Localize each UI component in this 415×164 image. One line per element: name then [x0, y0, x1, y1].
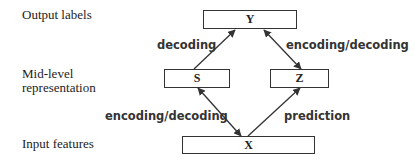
- node-y: Y: [203, 10, 297, 29]
- level-label-mid-line2: representation: [22, 81, 96, 95]
- edge-label-decoding: decoding: [157, 39, 216, 52]
- level-label-output: Output labels: [22, 8, 92, 22]
- diagram-canvas: Output labels Mid-level representation I…: [0, 0, 415, 164]
- level-label-input: Input features: [22, 137, 94, 151]
- node-z: Z: [270, 69, 329, 88]
- node-y-label: Y: [246, 12, 255, 27]
- level-label-mid-line1: Mid-level: [22, 67, 73, 81]
- node-s-label: S: [194, 71, 201, 86]
- node-x: X: [182, 136, 315, 154]
- edge-label-prediction: prediction: [284, 110, 350, 123]
- node-z-label: Z: [295, 71, 303, 86]
- node-s: S: [164, 69, 230, 88]
- edge-label-s-x-encoding-decoding: encoding/decoding: [105, 110, 228, 123]
- node-x-label: X: [244, 138, 253, 153]
- edge-label-y-z-encoding-decoding: encoding/decoding: [286, 39, 409, 52]
